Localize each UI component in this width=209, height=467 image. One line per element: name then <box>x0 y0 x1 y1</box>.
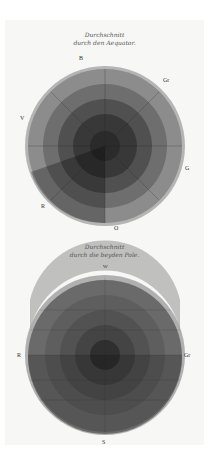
poles-sphere <box>25 240 185 435</box>
poles-label-top: W <box>103 264 108 269</box>
poles-caption-line2: durch die beyden Pole. <box>0 251 209 258</box>
equator-label-top: B <box>79 55 83 61</box>
poles-label-bottom: S <box>102 439 105 445</box>
color-sphere-diagrams <box>0 0 209 467</box>
equator-label-top-right: Gr <box>163 77 169 83</box>
equator-sphere <box>25 66 185 226</box>
equator-label-left: V <box>20 115 24 121</box>
equator-label-bottom-left: R <box>41 203 45 209</box>
poles-label-left: R <box>17 352 21 358</box>
equator-label-bottom: O <box>114 225 118 231</box>
poles-label-right: Gr <box>184 352 190 358</box>
equator-label-right: G <box>185 165 189 171</box>
poles-caption-line1: Durchschnitt <box>0 243 209 250</box>
